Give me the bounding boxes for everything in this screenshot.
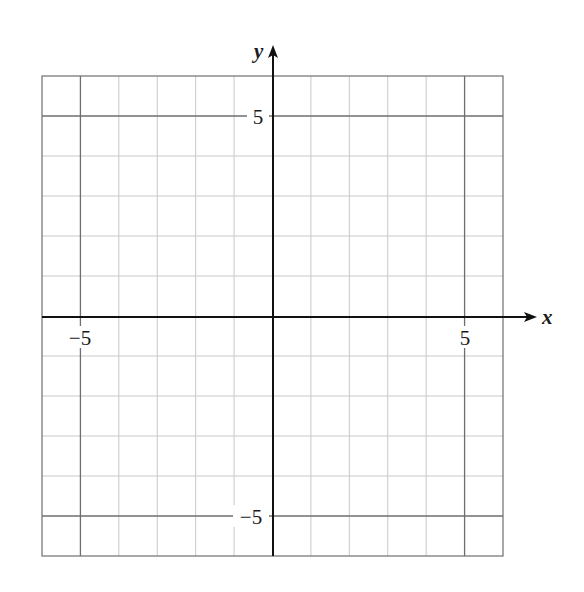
x-tick-label-neg5: −5 xyxy=(69,326,91,350)
y-tick-label-neg5: −5 xyxy=(240,505,262,529)
coordinate-plane: x y −5 5 5 −5 xyxy=(0,0,584,592)
y-tick-label-5: 5 xyxy=(253,105,264,129)
x-axis-label: x xyxy=(541,305,553,329)
y-axis-label: y xyxy=(251,39,264,63)
x-tick-label-5: 5 xyxy=(460,326,471,350)
